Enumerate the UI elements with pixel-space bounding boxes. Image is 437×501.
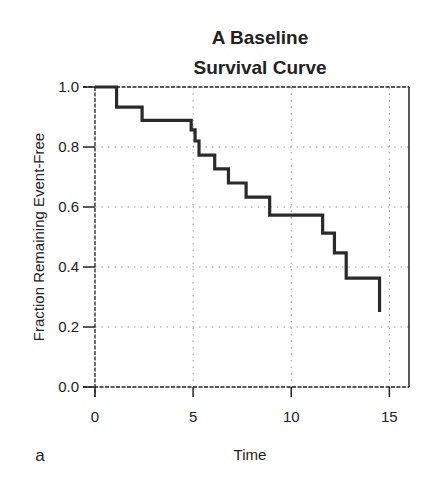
y-tick-label: 0.6 — [58, 198, 79, 215]
plot-frame — [83, 87, 409, 397]
y-axis-label: Fraction Remaining Event-Free — [30, 133, 47, 341]
grid-lines — [95, 87, 409, 387]
x-tick-label: 5 — [189, 408, 197, 425]
survival-chart: A Baseline Survival Curve 0510150.00.20.… — [0, 0, 437, 501]
y-tick-label: 0.8 — [58, 138, 79, 155]
y-tick-label: 0.0 — [58, 378, 79, 395]
chart-title-line-2: Survival Curve — [193, 57, 326, 78]
chart-canvas: A Baseline Survival Curve 0510150.00.20.… — [0, 0, 437, 501]
x-tick-label: 0 — [91, 408, 99, 425]
y-tick-label: 0.4 — [58, 258, 79, 275]
y-tick-label: 1.0 — [58, 78, 79, 95]
y-tick-label: 0.2 — [58, 318, 79, 335]
chart-title-line-1: A Baseline — [212, 27, 308, 48]
panel-label: a — [35, 446, 45, 465]
x-tick-label: 10 — [283, 408, 300, 425]
x-axis-label: Time — [234, 446, 267, 463]
survival-step-curve — [95, 87, 380, 312]
x-tick-label: 15 — [381, 408, 398, 425]
